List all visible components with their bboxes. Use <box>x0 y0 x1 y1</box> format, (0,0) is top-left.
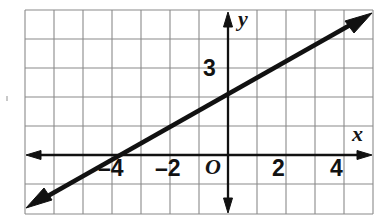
x-tick-label-neg2: –2 <box>155 157 181 180</box>
line-lower-arrowhead <box>26 188 52 208</box>
coordinate-plane-figure: y x O –4 –2 2 4 3 <box>0 0 388 220</box>
origin-label: O <box>205 156 221 178</box>
x-tick-label-pos2: 2 <box>272 157 285 180</box>
x-tick-label-neg4: –4 <box>98 157 124 180</box>
y-axis-bottom-arrowhead <box>224 198 233 213</box>
x-axis-left-arrowhead <box>26 151 41 160</box>
x-axis-label: x <box>352 123 363 145</box>
y-axis-label: y <box>238 8 248 30</box>
x-tick-label-pos4: 4 <box>330 157 343 180</box>
x-axis-right-arrowhead <box>357 151 372 160</box>
y-tick-label-3: 3 <box>203 57 216 80</box>
graph-canvas <box>0 0 388 220</box>
y-axis-top-arrowhead <box>224 12 233 27</box>
line-upper-arrowhead <box>345 13 372 33</box>
scan-artifact <box>6 96 8 101</box>
